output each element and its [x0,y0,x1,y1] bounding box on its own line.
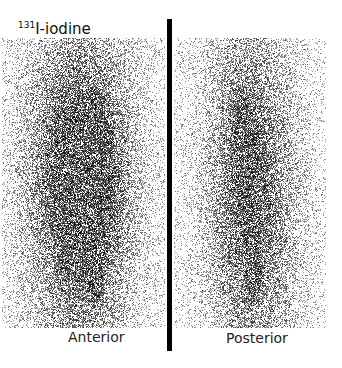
panel-divider [167,19,172,351]
posterior-scan-image [174,38,326,328]
anterior-scan-image [2,38,165,328]
anterior-scan-panel [2,38,165,328]
image-title: 131I-iodine [18,20,91,38]
isotope-agent: I-iodine [35,20,91,38]
anterior-label: Anterior [68,329,125,345]
isotope-mass-number: 131 [18,20,35,30]
posterior-scan-panel [174,38,326,328]
posterior-label: Posterior [226,330,288,346]
